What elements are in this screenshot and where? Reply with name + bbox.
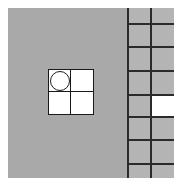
- side-grid-hline: [127, 70, 174, 72]
- side-grid-hline: [127, 46, 174, 48]
- side-grid-hline: [127, 94, 174, 96]
- piece-cell[interactable]: [70, 91, 94, 115]
- side-grid-hline: [127, 116, 174, 118]
- side-grid-hline: [127, 23, 174, 25]
- piece-cell[interactable]: [70, 69, 94, 92]
- side-grid-hline: [127, 163, 174, 165]
- side-grid-hline: [127, 139, 174, 141]
- side-grid-vline: [127, 8, 129, 178]
- side-grid-vline: [150, 8, 152, 178]
- piece-cell[interactable]: [48, 91, 71, 115]
- circle-token-icon: [50, 71, 70, 91]
- piece-cell[interactable]: [48, 69, 71, 92]
- active-piece[interactable]: [48, 69, 94, 115]
- side-grid-filled-cell: [151, 95, 174, 116]
- game-board[interactable]: [8, 8, 174, 178]
